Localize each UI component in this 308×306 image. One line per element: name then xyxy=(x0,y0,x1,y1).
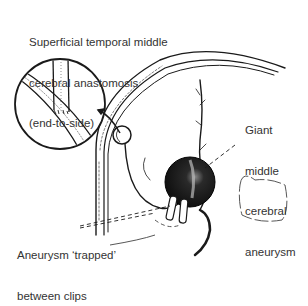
clips xyxy=(166,196,188,224)
clip-left xyxy=(166,196,178,221)
clip-right xyxy=(179,199,188,224)
label-aneurysm-line4: aneurysm xyxy=(245,246,296,260)
label-anastomosis-line2: cerebral anastomosis xyxy=(29,77,168,91)
label-trapped-line1: Aneurysm ‘trapped’ xyxy=(17,249,116,263)
label-anastomosis: Superficial temporal middle cerebral ana… xyxy=(29,9,168,144)
label-aneurysm-line3: cerebral xyxy=(245,205,296,219)
label-anastomosis-line1: Superficial temporal middle xyxy=(29,36,168,50)
label-aneurysm: Giant middle cerebral aneurysm xyxy=(245,97,296,273)
label-trapped-line2: between clips xyxy=(17,290,116,304)
label-anastomosis-line3: (end-to-side) xyxy=(29,117,168,131)
label-aneurysm-line1: Giant xyxy=(245,124,296,138)
label-trapped: Aneurysm ‘trapped’ between clips xyxy=(17,222,116,306)
label-aneurysm-line2: middle xyxy=(245,165,296,179)
